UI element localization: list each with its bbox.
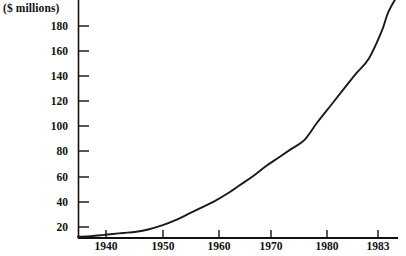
chart-plot-area xyxy=(0,0,406,256)
x-axis-ticks xyxy=(106,230,378,238)
data-series-curve xyxy=(78,0,398,237)
y-axis-ticks xyxy=(78,26,89,227)
chart-screenshot: ($ millions) 180 160 140 120 100 80 60 4… xyxy=(0,0,406,256)
